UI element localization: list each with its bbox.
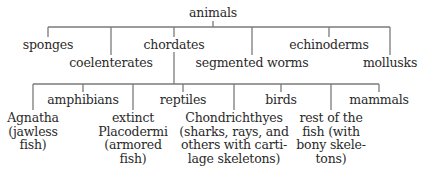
node-reptiles: reptiles — [160, 93, 207, 107]
node-birds: birds — [265, 93, 296, 107]
node-coelenterates: coelenterates — [69, 56, 152, 70]
node-mollusks: mollusks — [363, 56, 417, 70]
node-segmented-worms: segmented worms — [196, 56, 309, 70]
node-sponges: sponges — [23, 38, 73, 52]
node-amphibians: amphibians — [47, 93, 118, 107]
node-rest-of-fish: rest of the fish (with bony skele- tons) — [296, 111, 365, 165]
node-chondrichthyes: Chondrichthyes (sharks, rays, and others… — [179, 111, 288, 165]
node-animals: animals — [189, 6, 237, 20]
node-placodermi: extinct Placodermi (armored fish) — [98, 111, 168, 165]
node-echinoderms: echinoderms — [289, 38, 368, 52]
node-chordates: chordates — [143, 38, 204, 52]
node-mammals: mammals — [349, 93, 408, 107]
taxonomy-tree-diagram: animals sponges coelenterates chordates … — [0, 0, 425, 178]
node-agnatha: Agnatha (jawless fish) — [7, 111, 59, 152]
